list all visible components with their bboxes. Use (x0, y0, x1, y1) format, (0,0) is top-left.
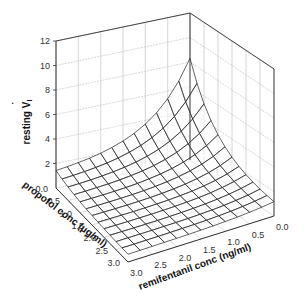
z-tick-label: 4 (45, 134, 50, 144)
remifentanil-tick-label: 3.0 (130, 268, 143, 278)
z-axis-ticks: 24681012 (40, 36, 56, 169)
remifentanil-tick-label: 0.5 (252, 230, 265, 240)
z-tick-label: 2 (45, 159, 50, 169)
remifentanil-tick-label: 2.0 (179, 253, 192, 263)
z-tick-label: 10 (40, 61, 50, 71)
z-tick-label: 8 (45, 85, 50, 95)
z-axis-label-dot: ˙ (11, 102, 22, 105)
remifentanil-tick-label: 2.5 (154, 260, 167, 270)
remifentanil-tick-label: 0.0 (276, 222, 289, 232)
z-axis-label: resting VI (21, 100, 33, 145)
z-tick-label: 6 (45, 110, 50, 120)
surface-chart: 24681012 0.00.51.01.52.02.53.0 0.00.51.0… (0, 0, 305, 303)
propofol-tick-label: 3.0 (107, 258, 120, 268)
z-tick-label: 12 (40, 36, 50, 46)
